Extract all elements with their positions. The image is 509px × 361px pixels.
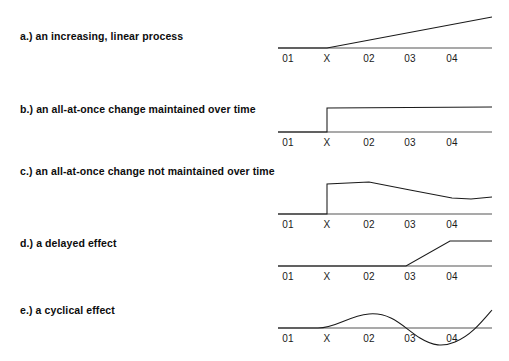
panel-d-tick-01: 01 (282, 271, 294, 282)
panel-a-tick-x: X (324, 53, 331, 64)
panel-d-tick-x: X (324, 271, 331, 282)
panel-b-tick-04: 04 (446, 137, 458, 148)
panel-b-tick-x: X (324, 137, 331, 148)
panel-b-caption: b.) an all-at-once change maintained ove… (20, 103, 256, 115)
effect-patterns-figure: a.) an increasing, linear process 01 X 0… (0, 0, 509, 361)
panel-b-tick-01: 01 (282, 137, 294, 148)
panel-d-tick-02: 02 (363, 271, 375, 282)
panel-c-tick-02: 02 (363, 219, 375, 230)
panel-c-tick-03: 03 (404, 219, 416, 230)
panel-a-caption: a.) an increasing, linear process (20, 30, 183, 42)
panel-b-tick-03: 03 (404, 137, 416, 148)
panel-c-tick-x: X (324, 219, 331, 230)
panel-d-tick-04: 04 (446, 271, 458, 282)
panel-a-tick-02: 02 (363, 53, 375, 64)
panel-e-tick-01: 01 (282, 333, 294, 344)
panel-a-tick-04: 04 (446, 53, 458, 64)
panel-d-caption: d.) a delayed effect (20, 237, 117, 249)
panel-c-tick-01: 01 (282, 219, 294, 230)
panel-e-tick-02: 02 (363, 333, 375, 344)
panel-a-tick-01: 01 (282, 53, 294, 64)
panel-c-caption: c.) an all-at-once change not maintained… (20, 165, 275, 177)
panel-a-tick-03: 03 (404, 53, 416, 64)
panel-e-caption: e.) a cyclical effect (20, 304, 115, 316)
panel-b-tick-02: 02 (363, 137, 375, 148)
panel-d-tick-03: 03 (404, 271, 416, 282)
panel-e-tick-04: 04 (446, 333, 458, 344)
panel-e-tick-x: X (324, 333, 331, 344)
panel-c-tick-04: 04 (446, 219, 458, 230)
